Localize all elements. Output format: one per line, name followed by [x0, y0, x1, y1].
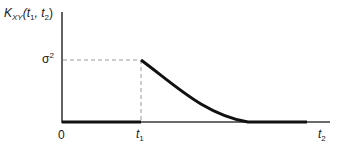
y-axis-label-sub: XY [12, 13, 23, 22]
sigma-exponent: 2 [49, 51, 53, 60]
y-axis-label-main: K [4, 6, 12, 20]
y-axis-label-arg: (t [23, 6, 30, 20]
y-axis-label-close: ) [49, 6, 53, 20]
x-axis-label-t2: t2 [318, 127, 326, 143]
x-tick-t1: t1 [136, 127, 144, 143]
y-axis-label-arg: , t [34, 6, 44, 20]
curve-decay-segment [141, 60, 307, 122]
t2-sub: 2 [321, 134, 325, 143]
y-axis-label: KXY(t1, t2) [4, 6, 53, 22]
y-tick-sigma-squared: σ2 [42, 51, 54, 66]
t1-sub: 1 [139, 134, 143, 143]
x-tick-origin: 0 [58, 128, 65, 142]
